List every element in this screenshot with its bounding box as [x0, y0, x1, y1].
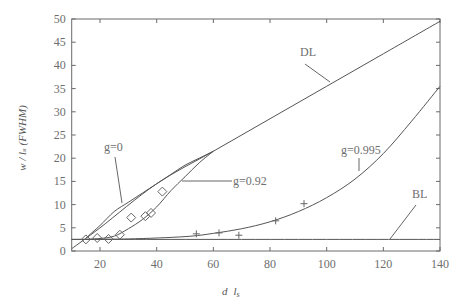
plus-marker	[216, 229, 223, 236]
arrow-bl	[390, 205, 416, 239]
curve-g-0-995	[72, 86, 440, 239]
annotation-dl: DL	[300, 45, 330, 82]
label-g092: g=0.92	[233, 174, 267, 188]
plus-marker	[272, 217, 279, 224]
arrow-g0	[115, 157, 122, 203]
y-axis-title: w / lₛ (FWHM)	[16, 105, 29, 171]
label-bl: BL	[412, 187, 427, 201]
axis-ticks	[72, 19, 440, 251]
y-tick-label: 50	[54, 12, 66, 26]
y-tick-label: 5	[60, 221, 66, 235]
x-tick-label: 100	[318, 257, 336, 271]
diamond-marker	[158, 187, 167, 196]
y-tick-label: 20	[54, 151, 66, 165]
y-tick-label: 45	[54, 35, 66, 49]
curve-g-0	[86, 151, 213, 238]
curve-dl	[72, 21, 440, 248]
label-g0: g=0	[104, 140, 123, 154]
annotation-g092: g=0.92	[182, 174, 267, 188]
x-tick-label: 60	[207, 257, 219, 271]
y-tick-label: 35	[54, 82, 66, 96]
chart: 2040608010012014005101520253035404550 DL…	[0, 0, 467, 304]
y-tick-label: 25	[54, 128, 66, 142]
x-tick-label: 120	[374, 257, 392, 271]
plus-marker	[235, 232, 242, 239]
annotation-bl: BL	[390, 187, 427, 239]
label-dl: DL	[300, 45, 316, 59]
label-g0995: g=0.995	[341, 143, 381, 157]
y-tick-label: 10	[54, 198, 66, 212]
plus-marker	[301, 200, 308, 207]
x-axis-title: dls	[222, 285, 240, 299]
diamond-marker	[127, 213, 136, 222]
curve-g-0-92	[86, 151, 213, 239]
x-tick-label: 140	[431, 257, 449, 271]
plot-frame	[72, 19, 440, 251]
x-tick-label: 20	[94, 257, 106, 271]
x-tick-label: 80	[264, 257, 276, 271]
y-tick-label: 40	[54, 58, 66, 72]
arrow-dl	[305, 64, 330, 82]
y-tick-label: 30	[54, 105, 66, 119]
y-tick-label: 0	[60, 244, 66, 258]
annotation-g0995: g=0.995	[341, 143, 381, 171]
x-tick-label: 40	[151, 257, 163, 271]
y-tick-label: 15	[54, 174, 66, 188]
data-curves	[72, 21, 440, 248]
annotation-g0: g=0	[104, 140, 123, 203]
